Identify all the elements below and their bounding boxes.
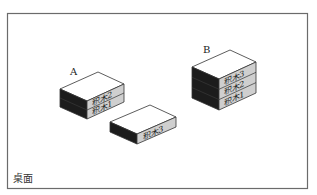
stack-a-label: A	[69, 66, 78, 77]
surface-label: 桌面	[13, 172, 33, 184]
diagram-canvas: 积木2 积木1 A 积木3 积木2 积木1 B 积木3 桌面	[0, 0, 317, 195]
stack-b-label: B	[203, 44, 210, 55]
table-frame	[8, 14, 308, 189]
